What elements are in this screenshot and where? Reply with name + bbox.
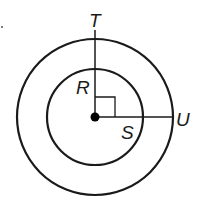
label-s: S bbox=[121, 122, 134, 143]
stray-dot bbox=[1, 26, 3, 28]
center-point bbox=[91, 113, 100, 122]
label-t: T bbox=[89, 10, 102, 31]
label-r: R bbox=[76, 77, 90, 98]
label-u: U bbox=[176, 109, 190, 130]
concentric-circles-diagram: T R S U bbox=[0, 0, 199, 205]
